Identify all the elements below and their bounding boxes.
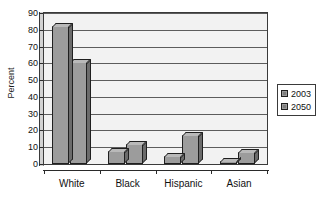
y-tick-label: 80 <box>14 26 38 35</box>
y-tick-label: 20 <box>14 126 38 135</box>
y-tick-label: 90 <box>14 9 38 18</box>
legend-item-2003[interactable]: 2003 <box>280 87 313 100</box>
y-tick-label: 40 <box>14 93 38 102</box>
legend-item-2050[interactable]: 2050 <box>280 100 313 113</box>
bar-hispanic-2003 <box>164 156 181 164</box>
bar-chart: Percent 9080706050403020100 20032050 Whi… <box>0 0 321 201</box>
bar-side-face <box>87 59 91 163</box>
bar-white-2003 <box>52 26 69 164</box>
x-tick-mark <box>44 170 45 174</box>
legend-swatch-2003 <box>281 90 288 97</box>
legend-swatch-2050 <box>281 103 288 110</box>
y-tick-mark <box>39 114 43 115</box>
y-tick-mark <box>39 80 43 81</box>
y-tick-label: 70 <box>14 43 38 52</box>
y-tick-mark <box>39 147 43 148</box>
y-tick-label: 0 <box>14 160 38 169</box>
gridline <box>44 30 267 31</box>
bar-black-2003 <box>108 151 125 164</box>
y-tick-label: 10 <box>14 143 38 152</box>
y-tick-label: 30 <box>14 110 38 119</box>
y-tick-label: 60 <box>14 59 38 68</box>
x-tick-mark <box>211 170 212 174</box>
plot-area <box>43 12 268 165</box>
y-tick-mark <box>39 47 43 48</box>
x-tick-label-asian: Asian <box>204 178 274 189</box>
chart-legend: 20032050 <box>277 84 316 116</box>
gridline <box>44 13 267 14</box>
y-tick-mark <box>39 13 43 14</box>
x-tick-mark <box>267 170 268 174</box>
y-tick-mark <box>39 164 43 165</box>
x-tick-mark <box>156 170 157 174</box>
bar-side-face <box>255 149 259 163</box>
bar-side-face <box>199 132 203 163</box>
y-tick-mark <box>39 63 43 64</box>
bar-asian-2003 <box>220 161 237 164</box>
legend-label: 2050 <box>291 102 311 112</box>
y-tick-label: 50 <box>14 76 38 85</box>
y-tick-mark <box>39 97 43 98</box>
y-axis-tick-labels: 9080706050403020100 <box>14 12 38 165</box>
gridline <box>44 47 267 48</box>
x-tick-mark <box>100 170 101 174</box>
y-tick-mark <box>39 130 43 131</box>
legend-label: 2003 <box>291 89 311 99</box>
bar-side-face <box>69 23 73 163</box>
bar-side-face <box>143 141 147 163</box>
y-tick-mark <box>39 30 43 31</box>
